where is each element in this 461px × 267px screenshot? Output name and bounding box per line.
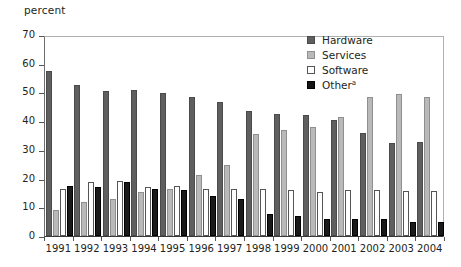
- bar-hardware-2001: [331, 120, 337, 236]
- bar-hardware-1995: [160, 93, 166, 236]
- bar-hardware-2002: [360, 133, 366, 236]
- x-tick-mark-14: [444, 237, 445, 241]
- legend-label-other: Othera: [322, 79, 356, 91]
- bar-other-1993: [124, 182, 130, 236]
- bar-group-1995: [159, 37, 188, 236]
- x-tick-label-1994: 1994: [131, 243, 156, 254]
- bar-other-1992: [95, 187, 101, 236]
- legend-label-services: Services: [322, 49, 366, 61]
- x-tick-mark-9: [301, 237, 302, 241]
- bar-hardware-1997: [217, 102, 223, 236]
- bar-group-2004: [416, 37, 445, 236]
- y-tick-mark-50: [39, 93, 44, 94]
- x-tick-mark-5: [187, 237, 188, 241]
- bar-other-1998: [267, 214, 273, 236]
- legend-item-software[interactable]: Software: [307, 63, 373, 77]
- y-tick-mark-20: [39, 180, 44, 181]
- bar-services-1992: [81, 202, 87, 236]
- bar-hardware-1992: [74, 85, 80, 236]
- legend-label-hardware: Hardware: [322, 34, 373, 46]
- x-tick-mark-13: [415, 237, 416, 241]
- bar-group-1992: [74, 37, 103, 236]
- bar-group-1998: [245, 37, 274, 236]
- x-tick-label-1998: 1998: [246, 243, 271, 254]
- bar-hardware-1998: [246, 111, 252, 236]
- x-tick-label-1991: 1991: [46, 243, 71, 254]
- bar-group-1996: [188, 37, 217, 236]
- y-axis-label: percent: [24, 4, 66, 16]
- bar-services-2003: [396, 94, 402, 236]
- y-tick-label-10: 10: [0, 201, 35, 212]
- bar-services-1991: [53, 210, 59, 236]
- bar-software-1998: [260, 189, 266, 236]
- x-tick-label-1999: 1999: [274, 243, 299, 254]
- bar-other-2002: [381, 219, 387, 236]
- bar-software-2004: [431, 191, 437, 236]
- bar-chart: percent 010203040506070 1991199219931994…: [0, 0, 461, 267]
- x-tick-mark-4: [158, 237, 159, 241]
- bar-software-2003: [403, 191, 409, 236]
- bar-other-1999: [295, 216, 301, 236]
- bar-other-2001: [352, 219, 358, 236]
- x-tick-mark-10: [330, 237, 331, 241]
- bar-other-2000: [324, 219, 330, 236]
- legend-item-other[interactable]: Othera: [307, 78, 373, 92]
- legend-label-software: Software: [322, 64, 368, 76]
- legend: HardwareServicesSoftwareOthera: [303, 31, 377, 95]
- bars-layer: [45, 37, 443, 236]
- legend-footnote-marker: a: [352, 79, 356, 87]
- bar-services-1998: [253, 134, 259, 236]
- legend-swatch-software-icon: [307, 66, 315, 74]
- bar-hardware-2004: [417, 142, 423, 236]
- y-tick-label-50: 50: [0, 86, 35, 97]
- y-tick-label-70: 70: [0, 29, 35, 40]
- bar-services-1994: [138, 192, 144, 237]
- bar-software-1992: [88, 182, 94, 236]
- bar-hardware-1994: [131, 90, 137, 236]
- y-tick-label-20: 20: [0, 173, 35, 184]
- bar-hardware-1996: [189, 97, 195, 236]
- bar-software-1996: [203, 189, 209, 236]
- bar-hardware-2000: [303, 115, 309, 236]
- bar-hardware-1991: [46, 71, 52, 236]
- legend-swatch-other-icon: [307, 81, 315, 89]
- x-tick-label-2002: 2002: [360, 243, 385, 254]
- legend-item-hardware[interactable]: Hardware: [307, 33, 373, 47]
- bar-other-1994: [152, 189, 158, 236]
- bar-other-2004: [438, 222, 444, 236]
- bar-software-1997: [231, 189, 237, 236]
- bar-other-2003: [410, 222, 416, 236]
- bar-hardware-2003: [389, 143, 395, 236]
- x-tick-mark-0: [44, 237, 45, 241]
- y-tick-mark-70: [39, 36, 44, 37]
- bar-services-1996: [196, 175, 202, 236]
- bar-group-1997: [216, 37, 245, 236]
- legend-swatch-hardware-icon: [307, 36, 315, 44]
- bar-services-2001: [338, 117, 344, 236]
- x-tick-label-1993: 1993: [103, 243, 128, 254]
- y-tick-mark-40: [39, 122, 44, 123]
- bar-group-1991: [45, 37, 74, 236]
- bar-hardware-1999: [274, 114, 280, 236]
- x-tick-label-1996: 1996: [188, 243, 213, 254]
- bar-software-1995: [174, 186, 180, 236]
- x-tick-label-1992: 1992: [74, 243, 99, 254]
- bar-services-2004: [424, 97, 430, 236]
- x-tick-mark-8: [273, 237, 274, 241]
- x-tick-label-2000: 2000: [303, 243, 328, 254]
- x-tick-label-1995: 1995: [160, 243, 185, 254]
- legend-swatch-services-icon: [307, 51, 315, 59]
- x-tick-mark-2: [101, 237, 102, 241]
- plot-area: [44, 36, 444, 237]
- bar-other-1997: [238, 199, 244, 236]
- y-tick-label-40: 40: [0, 115, 35, 126]
- bar-services-1993: [110, 199, 116, 236]
- bar-software-1993: [117, 181, 123, 236]
- bar-group-1999: [274, 37, 303, 236]
- y-tick-mark-60: [39, 65, 44, 66]
- bar-group-1994: [131, 37, 160, 236]
- y-tick-label-30: 30: [0, 144, 35, 155]
- y-tick-mark-10: [39, 208, 44, 209]
- x-tick-mark-12: [387, 237, 388, 241]
- legend-item-services[interactable]: Services: [307, 48, 373, 62]
